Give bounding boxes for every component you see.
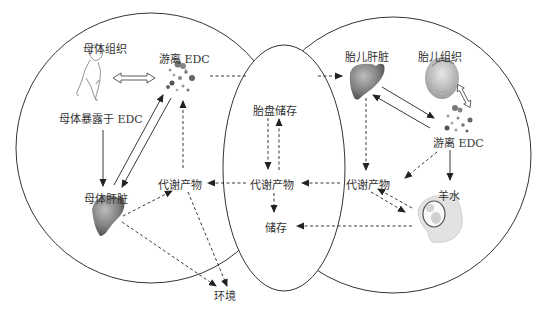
fetal-liver-icon bbox=[350, 64, 385, 100]
maternal-liver-label: 母体肝脏 bbox=[84, 190, 128, 206]
arrow-maternal-liver-to-edc bbox=[114, 95, 163, 185]
fetal-liver-label: 胎儿肝脏 bbox=[345, 48, 389, 64]
amniotic-fluid-label: 羊水 bbox=[438, 187, 460, 203]
maternal-free-edc-label: 游离 EDC bbox=[159, 50, 210, 66]
arrow-maternal-liver-to-metabolites bbox=[123, 191, 172, 216]
placental-metabolites-label: 代谢产物 bbox=[250, 176, 294, 192]
particle-cluster-icon bbox=[445, 105, 473, 133]
fetal-free-edc-label: 游离 EDC bbox=[433, 134, 484, 150]
exchange-double-arrow bbox=[113, 73, 155, 83]
fetal-tissue-label: 胎儿组织 bbox=[418, 48, 462, 64]
arrow-fetal-edc-to-metabolites bbox=[405, 152, 437, 178]
edc-transfer-diagram bbox=[0, 0, 539, 309]
fetal-metabolites-label: 代谢产物 bbox=[346, 176, 390, 192]
maternal-exposure-label: 母体暴露于 EDC bbox=[59, 110, 143, 126]
arrow-metabolites-to-environment bbox=[188, 192, 227, 286]
placental-storage-label: 胎盘储存 bbox=[253, 102, 297, 118]
arrow-fetal-edc-to-liver bbox=[373, 95, 430, 128]
arrow-fetal-liver-to-edc bbox=[382, 87, 434, 118]
arrow-metabolites-to-womb bbox=[371, 192, 405, 212]
arrow-maternal-liver-to-environment bbox=[122, 222, 216, 286]
maternal-tissue-label: 母体组织 bbox=[83, 40, 127, 56]
maternal-metabolites-label: 代谢产物 bbox=[158, 176, 202, 192]
storage-label: 储存 bbox=[265, 219, 287, 235]
placenta-region bbox=[223, 45, 345, 291]
environment-label: 环境 bbox=[214, 287, 236, 303]
